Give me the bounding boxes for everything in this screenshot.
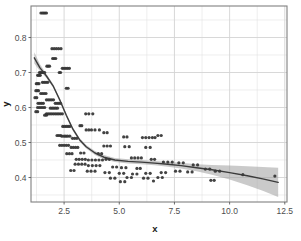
- x-tick-label: 12.5: [277, 206, 294, 216]
- y-axis-title: y: [0, 101, 11, 107]
- y-tick-label: 0.8: [15, 33, 27, 43]
- x-tick-label: 5.0: [113, 206, 125, 216]
- y-tick-label: 0.6: [15, 103, 27, 113]
- x-tick-label: 10.0: [221, 206, 238, 216]
- scatter-plot-svg: 2.55.07.510.012.5 0.40.50.60.70.8 x y: [0, 0, 301, 241]
- y-tick-label: 0.5: [15, 138, 27, 148]
- chart-container: 2.55.07.510.012.5 0.40.50.60.70.8 x y: [0, 0, 301, 241]
- x-tick-label: 7.5: [169, 206, 181, 216]
- x-axis-title: x: [152, 223, 158, 234]
- y-tick-label: 0.7: [15, 68, 27, 78]
- y-tick-label: 0.4: [15, 173, 27, 183]
- x-tick-label: 2.5: [58, 206, 70, 216]
